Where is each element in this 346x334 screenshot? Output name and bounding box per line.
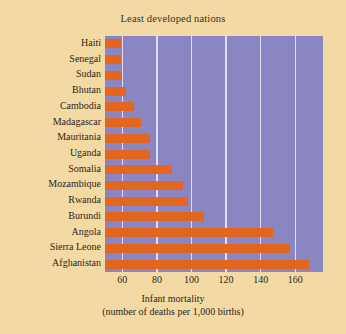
y-axis-label-bhutan: Bhutan — [0, 84, 101, 95]
bar — [105, 87, 126, 96]
bar — [105, 39, 121, 48]
bar — [105, 197, 188, 206]
y-axis-label-mozambique: Mozambique — [0, 178, 101, 189]
plot-area — [105, 36, 323, 272]
y-axis-label-angola: Angola — [0, 226, 101, 237]
x-axis-label: Infant mortality (number of deaths per 1… — [0, 292, 346, 318]
y-axis-label-somalia: Somalia — [0, 163, 101, 174]
y-axis-label-sudan: Sudan — [0, 68, 101, 79]
y-axis-label-rwanda: Rwanda — [0, 194, 101, 205]
bar — [105, 150, 150, 159]
bar — [105, 228, 273, 237]
chart-figure: Least developed nations HaitiSenegalSuda… — [0, 0, 346, 334]
gridline-160 — [295, 36, 296, 272]
x-tick-160: 160 — [278, 274, 312, 285]
chart-title: Least developed nations — [0, 13, 346, 24]
bar — [105, 118, 141, 127]
x-tick-140: 140 — [244, 274, 278, 285]
x-tick-80: 80 — [140, 274, 174, 285]
bar — [105, 55, 121, 64]
y-axis-label-senegal: Senegal — [0, 53, 101, 64]
y-axis-label-haiti: Haiti — [0, 37, 101, 48]
bar — [105, 181, 183, 190]
y-axis-label-uganda: Uganda — [0, 147, 101, 158]
y-axis-label-mauritania: Mauritania — [0, 131, 101, 142]
y-axis-category-labels: HaitiSenegalSudanBhutanCambodiaMadagasca… — [0, 36, 101, 272]
bar — [105, 102, 134, 111]
bar — [105, 244, 290, 253]
x-axis-label-line1: Infant mortality — [0, 292, 346, 305]
x-axis-label-line2: (number of deaths per 1,000 births) — [0, 305, 346, 318]
y-axis-label-madagascar: Madagascar — [0, 116, 101, 127]
bar — [105, 71, 122, 80]
y-axis-label-sierra-leone: Sierra Leone — [0, 241, 101, 252]
x-tick-120: 120 — [209, 274, 243, 285]
y-axis-label-cambodia: Cambodia — [0, 100, 101, 111]
x-tick-100: 100 — [175, 274, 209, 285]
bar — [105, 165, 172, 174]
bar — [105, 260, 309, 269]
bar — [105, 134, 150, 143]
y-axis-label-burundi: Burundi — [0, 210, 101, 221]
y-axis-label-afghanistan: Afghanistan — [0, 257, 101, 268]
bar — [105, 212, 204, 221]
x-tick-60: 60 — [105, 274, 139, 285]
x-axis-tick-labels: 6080100120140160 — [0, 274, 346, 290]
